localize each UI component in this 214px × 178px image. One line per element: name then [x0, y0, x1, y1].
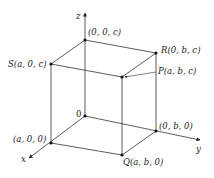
x-axis-label: x: [21, 155, 26, 164]
label-z-top: (0, 0, c): [88, 28, 121, 37]
point-R: [154, 51, 157, 54]
point-y: [154, 129, 157, 132]
z-axis-label: z: [76, 12, 80, 21]
y-axis-label: y: [196, 145, 201, 154]
point-S: [49, 62, 52, 65]
point-z-top: [83, 38, 86, 41]
edge-R-P: [122, 53, 156, 77]
point-origin: [83, 114, 86, 117]
edge-zc-R: [85, 40, 156, 53]
label-Q: Q(a, b, 0): [123, 158, 163, 167]
label-R: R(0, b, c): [161, 46, 200, 55]
edge-zc-S: [51, 40, 85, 64]
label-y-point: (0, b, 0): [159, 122, 193, 131]
edge-S-P: [51, 64, 122, 77]
point-x: [49, 141, 52, 144]
edge-x-Q: [51, 143, 122, 155]
label-origin: 0: [76, 110, 81, 119]
point-P: [120, 75, 123, 78]
label-x-point: (a, 0, 0): [13, 135, 46, 144]
label-S: S(a, 0, c): [8, 60, 47, 69]
edge-y-Q: [122, 131, 156, 155]
label-P: P(a, b, c): [158, 67, 196, 76]
P-pointer: [125, 72, 156, 77]
